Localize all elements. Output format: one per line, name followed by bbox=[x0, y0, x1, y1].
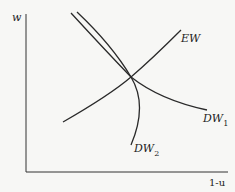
dw2-label: DW2 bbox=[133, 142, 159, 158]
dw1-label-main: DW bbox=[202, 112, 225, 125]
x-axis-label: 1-u bbox=[209, 177, 226, 188]
dw1-label-sub: 1 bbox=[223, 119, 228, 128]
ew-label: EW bbox=[180, 32, 202, 45]
x-axis-label-text: 1-u bbox=[209, 177, 226, 188]
labor-market-diagram: w 1-u EW DW1 DW2 bbox=[0, 0, 235, 192]
ew-curve bbox=[63, 30, 181, 122]
y-axis-label: w bbox=[12, 11, 22, 24]
dw1-label: DW1 bbox=[202, 112, 228, 128]
dw1-curve bbox=[71, 13, 207, 110]
dw2-label-sub: 2 bbox=[154, 149, 159, 158]
dw2-label-main: DW bbox=[133, 142, 156, 155]
